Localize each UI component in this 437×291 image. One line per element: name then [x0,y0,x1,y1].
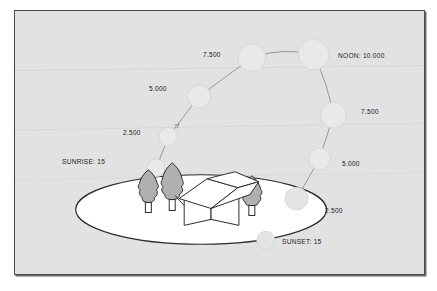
sun-afternoon-3 [285,187,308,210]
label-sunset: SUNSET: 15 [282,238,322,245]
figure-frame: SUNRISE: 15 2.500 5.000 7.500 NOON: 10.0… [14,10,425,275]
sun-sunset [257,231,275,249]
label-morning-2: 5.000 [149,85,167,92]
label-morning-1: 2.500 [123,129,141,136]
sun-path-figure: SUNRISE: 15 2.500 5.000 7.500 NOON: 10.0… [0,0,437,291]
sun-morning-3 [238,44,266,72]
label-noon: NOON: 10.000 [338,52,385,59]
label-afternoon-1: 7.500 [361,108,379,115]
sun-afternoon-2 [309,148,331,170]
sun-morning-1 [159,128,178,147]
label-morning-3: 7.500 [203,51,221,58]
sun-noon [298,39,329,70]
sun-afternoon-1 [321,102,347,128]
label-afternoon-3: 2.500 [325,207,343,214]
sun-morning-2 [188,85,211,108]
label-sunrise: SUNRISE: 15 [62,158,105,165]
label-afternoon-2: 5.000 [342,160,360,167]
